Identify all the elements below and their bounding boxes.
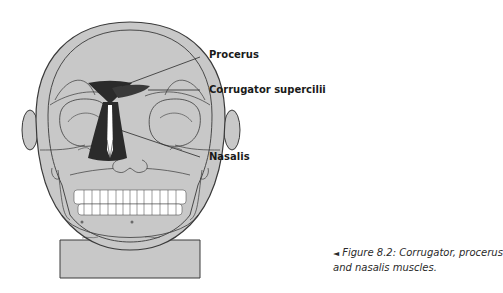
- label-corrugator-supercilii: Corrugator supercilii: [209, 84, 326, 95]
- triangle-marker-icon: ◄: [333, 249, 339, 258]
- anatomy-figure: Procerus Corrugator supercilii Nasalis ◄…: [0, 0, 503, 293]
- figure-caption: ◄Figure 8.2: Corrugator, procerus and na…: [333, 246, 503, 275]
- teeth: [74, 190, 186, 215]
- label-procerus: Procerus: [209, 49, 259, 60]
- caption-text: Figure 8.2: Corrugator, procerus and nas…: [333, 247, 503, 273]
- label-nasalis: Nasalis: [209, 151, 250, 162]
